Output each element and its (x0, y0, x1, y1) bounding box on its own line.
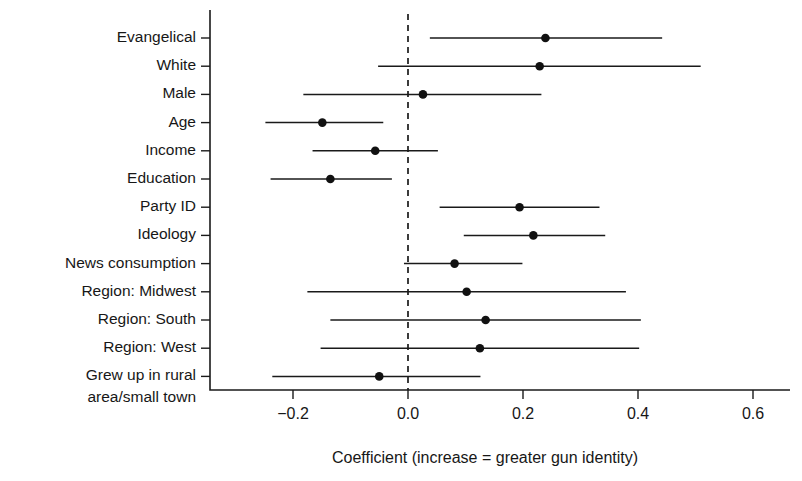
confidence-intervals-group (265, 38, 700, 376)
category-label: White (156, 56, 196, 73)
x-axis-tickmarks-group (293, 390, 753, 399)
estimate-point (450, 259, 459, 268)
coefficient-plot-figure: EvangelicalWhiteMaleAgeIncomeEducationPa… (0, 0, 802, 481)
category-label: Region: West (103, 338, 196, 355)
estimate-point (481, 316, 490, 325)
x-axis-ticklabel: 0.0 (397, 405, 419, 422)
category-label: Region: Midwest (81, 282, 196, 299)
estimate-point (371, 147, 380, 156)
category-label: Grew up in rural (86, 366, 196, 383)
estimate-point (462, 288, 471, 297)
category-labels-group: EvangelicalWhiteMaleAgeIncomeEducationPa… (65, 28, 197, 405)
x-axis-ticklabel: −0.2 (277, 405, 309, 422)
category-label: Party ID (140, 197, 196, 214)
x-axis-title: Coefficient (increase = greater gun iden… (332, 449, 638, 466)
category-label: Age (168, 113, 196, 130)
plot-frame-group (210, 10, 790, 390)
estimate-point (419, 90, 428, 99)
x-axis-ticklabels-group: −0.20.00.20.40.6 (277, 405, 764, 422)
estimate-point (476, 344, 485, 353)
category-label: Region: South (98, 310, 196, 327)
x-axis-ticklabel: 0.6 (742, 405, 764, 422)
estimate-point (318, 118, 327, 127)
estimate-point (375, 372, 384, 381)
x-axis-ticklabel: 0.4 (627, 405, 649, 422)
estimate-point (326, 175, 335, 184)
category-label: area/small town (87, 388, 196, 405)
y-axis-tickmarks-group (201, 38, 210, 376)
estimate-point (515, 203, 524, 212)
category-label: Evangelical (117, 28, 196, 45)
category-label: Education (127, 169, 196, 186)
category-label: Income (145, 141, 196, 158)
category-label: News consumption (65, 254, 196, 271)
estimate-point (541, 34, 550, 43)
axis-spines (210, 10, 790, 390)
category-label: Male (162, 84, 196, 101)
coefficient-plot-svg: EvangelicalWhiteMaleAgeIncomeEducationPa… (0, 0, 802, 481)
estimate-point (535, 62, 544, 71)
estimate-point (529, 231, 538, 240)
category-label: Ideology (137, 225, 196, 242)
x-axis-ticklabel: 0.2 (512, 405, 534, 422)
